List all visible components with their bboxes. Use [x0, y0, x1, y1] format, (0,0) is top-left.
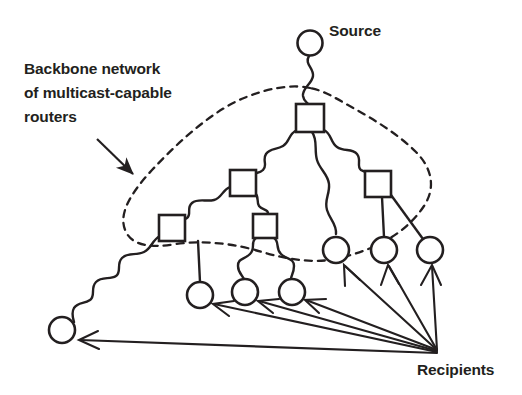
- source-label: Source: [329, 19, 381, 43]
- link-root-to-host5: [312, 132, 336, 234]
- recipient-host-2: [187, 282, 213, 308]
- multicast-diagram-figure: Backbone network of multicast-capable ro…: [0, 0, 522, 395]
- recipient-host-6: [371, 237, 397, 263]
- source-host-circle: [298, 31, 323, 56]
- recipient-pointer-7-head: [421, 265, 441, 285]
- backbone-network-label: Backbone network of multicast-capable ro…: [24, 57, 172, 129]
- link-right-to-host7: [391, 195, 423, 239]
- backbone-callout-arrow: [97, 139, 133, 174]
- link-source-to-root: [303, 56, 313, 104]
- recipient-host-7: [417, 237, 443, 263]
- link-lower-to-host4: [274, 238, 294, 280]
- recipients-label: Recipients: [417, 358, 494, 382]
- backbone-label-line-1: Backbone network: [24, 57, 172, 81]
- router-right: [365, 171, 391, 197]
- recipient-pointer-2: [214, 304, 437, 352]
- link-lower-to-host3: [238, 238, 256, 280]
- router-root: [296, 104, 324, 132]
- recipient-host-1: [49, 317, 75, 343]
- backbone-label-line-2: of multicast-capable: [24, 81, 172, 105]
- link-root-to-left-mid: [251, 130, 297, 176]
- recipient-pointer-6-head: [381, 265, 399, 285]
- backbone-label-line-3: routers: [24, 105, 172, 129]
- recipient-pointer-4: [306, 300, 437, 350]
- recipient-host-3: [232, 279, 258, 305]
- link-far-left-to-host1: [72, 236, 160, 322]
- recipient-pointer-1: [80, 340, 437, 353]
- recipient-host-4: [279, 279, 305, 305]
- recipient-pointer-5-head: [344, 265, 360, 286]
- link-far-left-to-host2: [198, 241, 200, 282]
- link-right-to-host6: [382, 197, 384, 237]
- router-far-left: [159, 215, 185, 241]
- recipient-pointer-7: [432, 266, 437, 350]
- router-lower-mid: [253, 214, 277, 238]
- recipient-host-5: [323, 237, 349, 263]
- link-root-to-right: [324, 130, 373, 174]
- router-left-mid: [230, 170, 256, 196]
